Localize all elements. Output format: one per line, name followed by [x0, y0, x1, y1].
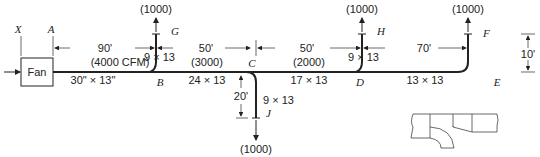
point-b-label: B [157, 76, 164, 88]
branch-f-flow: (1000) [452, 3, 484, 15]
duct-system-diagram: Fan X A (1000) G 9 × 13 B (1000) H 9 × 1… [0, 0, 540, 157]
branch-g-flow: (1000) [140, 3, 172, 15]
point-g-label: G [171, 25, 179, 37]
thumbnail-sketch [411, 114, 498, 148]
section-cd-flow: (2000) [293, 56, 325, 68]
fan-label: Fan [28, 66, 47, 78]
section-cd-size: 17 × 13 [290, 74, 327, 86]
point-j-label: J [266, 107, 272, 119]
branch-j-size: 9 × 13 [263, 94, 294, 106]
dim-de: 70' [417, 42, 431, 54]
branch-h-flow: (1000) [346, 3, 378, 15]
branch-h-size: 9 × 13 [348, 51, 379, 63]
point-x-label: X [14, 23, 23, 35]
section-de-size: 13 × 13 [406, 74, 443, 86]
dim-bc: 50' [199, 42, 213, 54]
section-bc-flow: (3000) [191, 56, 223, 68]
point-f-label: F [482, 27, 490, 39]
section-bc-size: 24 × 13 [188, 74, 225, 86]
dim-ef: 10' [521, 48, 535, 60]
dim-cd: 50' [300, 42, 314, 54]
dim-ab: 90' [98, 42, 112, 54]
point-h-label: H [376, 25, 386, 37]
dim-cj: 20' [234, 90, 248, 102]
branch-j-flow: (1000) [240, 143, 272, 155]
point-e-label: E [493, 76, 501, 88]
point-a-label: A [47, 23, 55, 35]
point-d-label: D [355, 76, 364, 88]
section-ab-flow: (4000 CFM) [91, 56, 150, 68]
point-c-label: C [248, 57, 256, 69]
section-ab-size: 30" × 13" [71, 74, 116, 86]
